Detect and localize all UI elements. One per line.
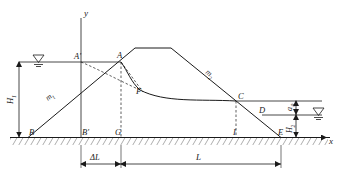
- dimension-a0-subscript: 0: [290, 104, 296, 107]
- dimension-H2: H 2: [285, 115, 296, 138]
- ground-surface: [10, 138, 330, 146]
- dimension-L-label: L: [195, 152, 201, 162]
- point-labels: A' A B B' C D E F G I: [29, 50, 284, 137]
- dimension-delta-L: ΔL: [81, 152, 121, 164]
- point-label-F: F: [135, 86, 142, 96]
- point-label-G: G: [115, 127, 121, 137]
- slope-label-m2: m 2: [203, 68, 216, 82]
- dimension-H1-subscript: 1: [11, 95, 17, 98]
- point-label-D: D: [258, 105, 266, 115]
- dimension-a0-label: a: [285, 107, 294, 111]
- point-label-A: A: [116, 50, 123, 60]
- y-axis-label: y: [83, 8, 88, 18]
- dimension-delta-L-label: ΔL: [89, 152, 100, 162]
- dimension-a0: a 0: [285, 101, 296, 115]
- upstream-water-level-symbol: [33, 55, 44, 67]
- point-label-B: B: [29, 127, 34, 137]
- dimension-extension-lines: [81, 145, 281, 168]
- point-label-C: C: [238, 91, 244, 101]
- downstream-levels: [236, 101, 322, 115]
- point-label-B-prime: B': [82, 127, 89, 137]
- dam-seepage-diagram: x y: [0, 0, 341, 183]
- x-axis-label: x: [328, 136, 333, 146]
- y-axis: y: [81, 8, 88, 138]
- dimension-H2-subscript: 2: [290, 125, 296, 128]
- downstream-water-level-symbol: [313, 108, 324, 120]
- figure-canvas: x y: [0, 0, 341, 183]
- point-label-A-prime: A': [73, 51, 81, 61]
- slope-label-m1: m 1: [44, 90, 57, 104]
- dimension-L: L: [121, 152, 281, 164]
- dimension-H1: H 1: [5, 62, 19, 138]
- point-label-E: E: [277, 127, 284, 137]
